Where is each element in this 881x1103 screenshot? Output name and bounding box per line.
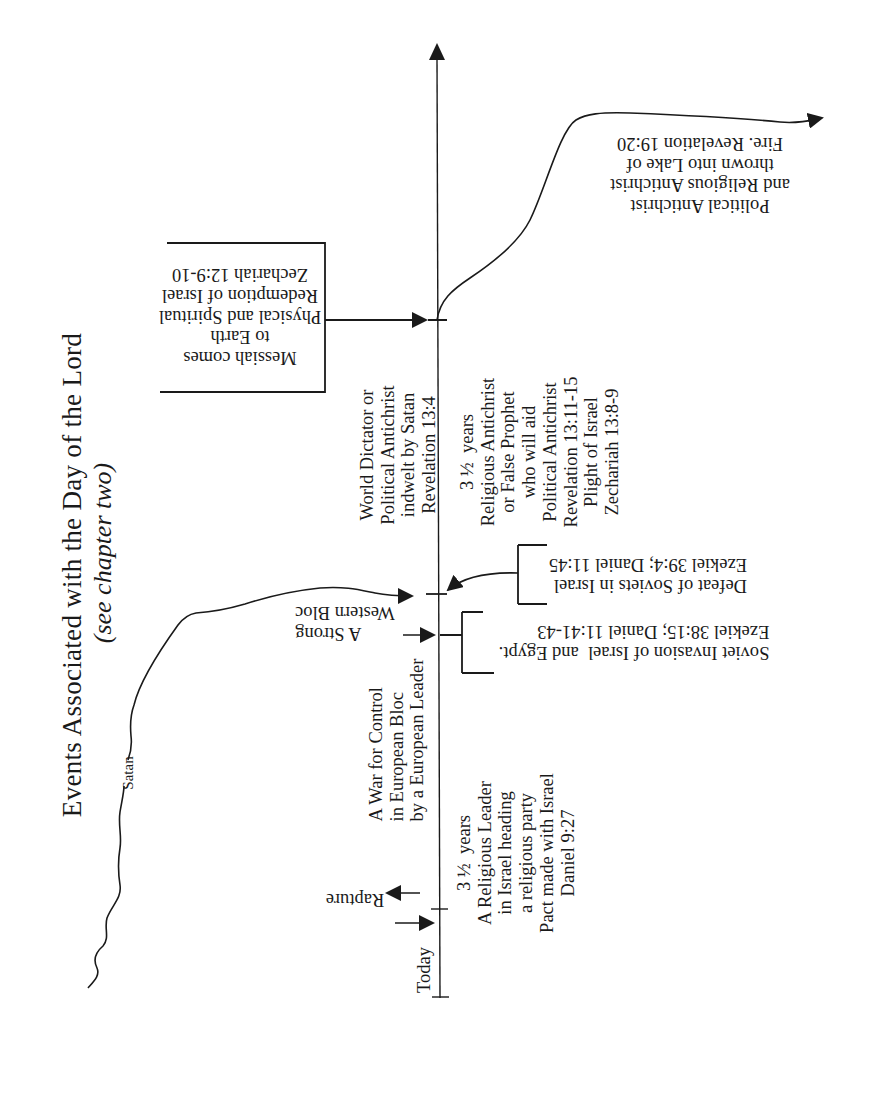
- label-satan: Satan: [120, 756, 137, 789]
- label-defeat-of-soviets: Defeat of Soviets in Israel Ezekiel 39:4…: [549, 554, 747, 595]
- diagram-title: Events Associated with the Day of the Lo…: [57, 333, 87, 817]
- diagram-subtitle: (see chapter two): [88, 463, 117, 644]
- label-strong-western-bloc: A Strong Western Bloc: [295, 602, 395, 643]
- label-first-three-half-years: 3 ½ years A Religious Leader in Israel h…: [454, 773, 578, 933]
- label-world-dictator: World Dictator or Political Antichrist i…: [357, 385, 440, 524]
- label-lake-of-fire: Political Antichrist and Religious Antic…: [610, 134, 790, 217]
- timeline-axis-arrowhead: [429, 43, 445, 60]
- defeat-soviets-bracket: [518, 545, 547, 604]
- label-soviet-invasion: Soviet Invasion of Israel and Egypt. Eze…: [499, 621, 770, 662]
- label-second-three-half-years: 3 ½ years Religious Antichrist or False …: [457, 377, 623, 528]
- label-war-for-control: A War for Control in European Bloc by a …: [366, 659, 428, 822]
- label-rapture: Rapture: [326, 890, 385, 911]
- satan-curve: [88, 587, 412, 988]
- soviet-invasion-bracket: [440, 612, 494, 673]
- label-today: Today: [414, 947, 435, 993]
- label-messiah-comes: Messiah comes to Earth Physical and Spir…: [159, 264, 321, 368]
- defeat-soviets-arrow: [448, 573, 518, 590]
- timeline-axis: [437, 58, 440, 998]
